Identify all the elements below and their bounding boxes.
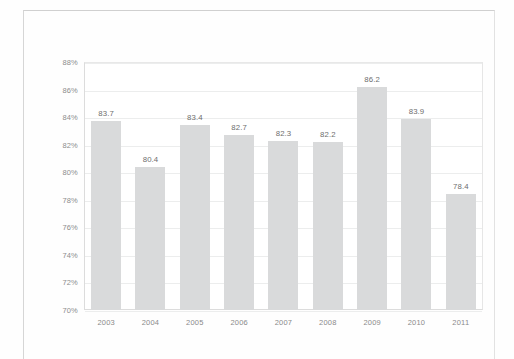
x-axis-tick-label: 2011: [452, 318, 469, 327]
y-axis-tick-label: 78%: [62, 195, 78, 204]
bar-group: 83.7: [84, 62, 128, 310]
bar-chart: 88%86%84%82%80%78%76%74%72%70% 83.780.48…: [0, 0, 514, 359]
y-axis-tick-label: 86%: [62, 85, 78, 94]
x-axis-tick-label: 2004: [142, 318, 160, 327]
bar: [268, 141, 298, 310]
bar: [313, 142, 343, 310]
bar-group: 82.2: [306, 62, 350, 310]
bar: [224, 135, 254, 310]
bar-value-label: 78.4: [453, 182, 469, 191]
y-axis-tick-label: 84%: [62, 113, 78, 122]
bar-group: 78.4: [439, 62, 483, 310]
bar: [135, 167, 165, 310]
x-axis-tick-label: 2006: [230, 318, 248, 327]
bar-value-label: 82.3: [276, 129, 292, 138]
y-axis-tick-label: 70%: [62, 306, 78, 315]
bar-group: 83.4: [173, 62, 217, 310]
bar-group: 80.4: [128, 62, 172, 310]
bar-value-label: 83.9: [409, 107, 425, 116]
bar: [180, 125, 210, 310]
bar-group: 82.7: [217, 62, 261, 310]
bar-value-label: 80.4: [143, 155, 159, 164]
y-axis-tick-label: 76%: [62, 223, 78, 232]
scanned-page: 88%86%84%82%80%78%76%74%72%70% 83.780.48…: [0, 0, 514, 359]
x-axis-tick-label: 2005: [186, 318, 204, 327]
y-axis-tick-label: 88%: [62, 58, 78, 67]
bar-group: 86.2: [350, 62, 394, 310]
bar-value-label: 82.7: [231, 123, 247, 132]
bar-group: 83.9: [394, 62, 438, 310]
bar: [357, 87, 387, 310]
bar: [91, 121, 121, 310]
x-axis-tick-label: 2009: [363, 318, 381, 327]
bar-value-label: 83.7: [98, 109, 114, 118]
y-axis-tick-label: 72%: [62, 278, 78, 287]
x-axis-tick-label: 2008: [319, 318, 337, 327]
y-axis-tick-label: 74%: [62, 250, 78, 259]
x-axis-tick-label: 2003: [97, 318, 115, 327]
bar-series: 83.780.483.482.782.382.286.283.978.4: [84, 62, 483, 310]
y-axis-tick-label: 82%: [62, 140, 78, 149]
bar: [446, 194, 476, 310]
bar-value-label: 83.4: [187, 113, 203, 122]
y-axis-tick-label: 80%: [62, 168, 78, 177]
bar-value-label: 82.2: [320, 130, 336, 139]
y-axis: 88%86%84%82%80%78%76%74%72%70%: [38, 62, 78, 310]
x-axis: 200320042005200620072008200920102011: [84, 312, 483, 332]
x-axis-tick-label: 2007: [275, 318, 293, 327]
bar-group: 82.3: [261, 62, 305, 310]
bar: [401, 119, 431, 311]
bar-value-label: 86.2: [364, 75, 380, 84]
x-axis-tick-label: 2010: [408, 318, 426, 327]
